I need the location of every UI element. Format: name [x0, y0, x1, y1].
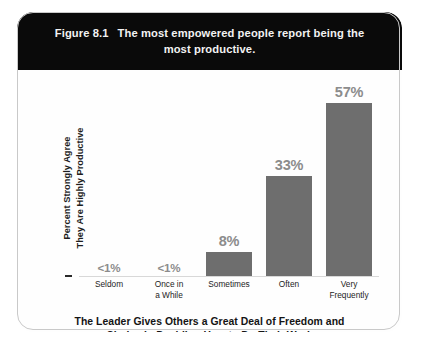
category-label: Seldom: [77, 279, 141, 290]
category-labels: SeldomOnce ina WhileSometimesOftenVeryFr…: [79, 279, 379, 313]
bar: [326, 103, 372, 276]
category-label-line: Very: [317, 279, 381, 290]
bar: [206, 252, 252, 276]
bar-column: <1%: [79, 88, 139, 276]
y-axis-tick: [65, 275, 72, 277]
category-label-line: Often: [257, 279, 321, 290]
figure-header: Figure 8.1The most empowered people repo…: [17, 12, 402, 70]
bar-value-label: <1%: [139, 261, 199, 274]
category-label-line: Frequently: [317, 290, 381, 301]
figure-title: Figure 8.1The most empowered people repo…: [29, 25, 391, 57]
bar-value-label: 8%: [199, 233, 259, 249]
bar-column: <1%: [139, 88, 199, 276]
category-label: Often: [257, 279, 321, 290]
bars-container: <1%<1%8%33%57%: [79, 88, 379, 276]
category-label-line: Sometimes: [197, 279, 261, 290]
x-axis-title: The Leader Gives Others a Great Deal of …: [41, 315, 378, 332]
chart-plot-area: Percent Strongly Agree They Are Highly P…: [17, 70, 402, 332]
figure-title-line2: most productive.: [164, 43, 256, 55]
x-axis-title-line2: Choice in Deciding How to Do Their Work: [41, 329, 378, 332]
category-label-line: Seldom: [77, 279, 141, 290]
x-axis-title-line1: The Leader Gives Others a Great Deal of …: [41, 315, 378, 329]
bar-column: 57%: [319, 88, 379, 276]
category-label: VeryFrequently: [317, 279, 381, 300]
bar-value-label: <1%: [79, 261, 139, 274]
y-axis-label-line1: Percent Strongly Agree: [61, 108, 74, 268]
bar-value-label: 33%: [259, 157, 319, 173]
figure-panel: Figure 8.1The most empowered people repo…: [17, 12, 402, 332]
bar-value-label: 57%: [319, 84, 379, 100]
figure-number: Figure 8.1: [55, 27, 109, 39]
category-label: Sometimes: [197, 279, 261, 290]
category-label-line: a While: [137, 290, 201, 301]
category-label-line: Once in: [137, 279, 201, 290]
category-label: Once ina While: [137, 279, 201, 300]
bar-column: 33%: [259, 88, 319, 276]
bar: [266, 176, 312, 276]
x-axis-baseline: [79, 276, 379, 277]
bar-column: 8%: [199, 88, 259, 276]
figure-title-line1: The most empowered people report being t…: [118, 27, 365, 39]
